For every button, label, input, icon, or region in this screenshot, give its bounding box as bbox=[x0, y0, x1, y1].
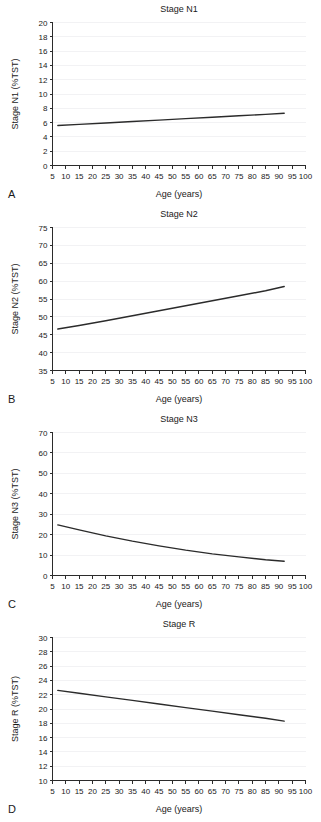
y-tick-label: 6 bbox=[43, 119, 48, 128]
x-tick-label: 100 bbox=[299, 787, 313, 796]
x-tick-label: 85 bbox=[261, 582, 270, 591]
y-tick-label: 60 bbox=[39, 449, 48, 458]
x-tick-label: 40 bbox=[141, 377, 150, 386]
x-tick-label: 25 bbox=[101, 582, 110, 591]
x-tick-label: 30 bbox=[115, 377, 124, 386]
x-tick-label: 75 bbox=[234, 787, 243, 796]
x-tick-label: 95 bbox=[288, 787, 297, 796]
y-tick-label: 50 bbox=[39, 469, 48, 478]
x-tick-label: 90 bbox=[274, 787, 283, 796]
y-tick-label: 10 bbox=[39, 90, 48, 99]
y-tick-label: 45 bbox=[39, 331, 48, 340]
y-tick-label: 16 bbox=[39, 734, 48, 743]
y-tick-label: 35 bbox=[39, 367, 48, 376]
y-tick-label: 10 bbox=[39, 551, 48, 560]
x-tick-label: 40 bbox=[141, 787, 150, 796]
gridlines bbox=[53, 433, 306, 576]
y-tick-label: 65 bbox=[39, 259, 48, 268]
y-tick-label: 0 bbox=[43, 572, 48, 581]
x-tick-label: 35 bbox=[128, 582, 137, 591]
y-tick-label: 40 bbox=[39, 490, 48, 499]
x-tick-label: 25 bbox=[101, 377, 110, 386]
y-axis-title: Stage N1 (%TST) bbox=[10, 58, 20, 129]
y-tick-label: 18 bbox=[39, 33, 48, 42]
x-tick-label: 20 bbox=[88, 172, 97, 181]
y-tick-label: 20 bbox=[39, 19, 48, 28]
x-tick-label: 50 bbox=[168, 377, 177, 386]
x-tick-label: 80 bbox=[248, 582, 257, 591]
x-tick-label: 25 bbox=[101, 172, 110, 181]
data-line bbox=[58, 286, 284, 329]
x-tick-label: 15 bbox=[75, 377, 84, 386]
x-tick-label: 95 bbox=[288, 582, 297, 591]
x-tick-label: 15 bbox=[75, 582, 84, 591]
chart-svg-c: Stage N301020304050607051015202530354045… bbox=[0, 410, 321, 615]
chart-panel-b: Stage N235404550556065707551015202530354… bbox=[0, 205, 321, 410]
x-tick-label: 10 bbox=[61, 582, 70, 591]
x-axis-title: Age (years) bbox=[156, 599, 203, 609]
x-tick-label: 55 bbox=[181, 582, 190, 591]
y-tick-label: 50 bbox=[39, 313, 48, 322]
y-tick-label: 24 bbox=[39, 676, 48, 685]
x-tick-label: 95 bbox=[288, 172, 297, 181]
x-tick-label: 10 bbox=[61, 787, 70, 796]
y-tick-label: 22 bbox=[39, 691, 48, 700]
y-tick-label: 55 bbox=[39, 295, 48, 304]
y-axis-ticks: 1012141618202224262830 bbox=[39, 634, 53, 786]
x-axis-ticks: 5101520253035404550556065707580859095100 bbox=[50, 166, 312, 181]
x-tick-label: 75 bbox=[234, 377, 243, 386]
y-axis-title: Stage R (%TST) bbox=[10, 676, 20, 742]
y-axis-ticks: 354045505560657075 bbox=[39, 224, 53, 376]
x-tick-label: 85 bbox=[261, 172, 270, 181]
x-tick-label: 10 bbox=[61, 377, 70, 386]
x-tick-label: 65 bbox=[208, 377, 217, 386]
panel-letter: C bbox=[8, 598, 16, 610]
x-tick-label: 60 bbox=[195, 787, 204, 796]
y-tick-label: 20 bbox=[39, 705, 48, 714]
y-axis-title: Stage N3 (%TST) bbox=[10, 468, 20, 539]
x-tick-label: 80 bbox=[248, 377, 257, 386]
y-tick-label: 30 bbox=[39, 634, 48, 643]
x-tick-label: 70 bbox=[221, 377, 230, 386]
x-tick-label: 20 bbox=[88, 787, 97, 796]
y-tick-label: 70 bbox=[39, 429, 48, 438]
y-tick-label: 16 bbox=[39, 47, 48, 56]
x-tick-label: 65 bbox=[208, 582, 217, 591]
x-axis-title: Age (years) bbox=[156, 804, 203, 814]
y-tick-label: 60 bbox=[39, 277, 48, 286]
x-tick-label: 70 bbox=[221, 787, 230, 796]
x-tick-label: 50 bbox=[168, 582, 177, 591]
x-tick-label: 15 bbox=[75, 172, 84, 181]
x-tick-label: 10 bbox=[61, 172, 70, 181]
x-tick-label: 40 bbox=[141, 172, 150, 181]
y-tick-label: 75 bbox=[39, 224, 48, 233]
gridlines bbox=[53, 228, 306, 371]
x-tick-label: 90 bbox=[274, 582, 283, 591]
x-tick-label: 30 bbox=[115, 582, 124, 591]
data-line bbox=[58, 113, 284, 125]
x-tick-label: 30 bbox=[115, 787, 124, 796]
x-tick-label: 85 bbox=[261, 377, 270, 386]
y-tick-label: 18 bbox=[39, 719, 48, 728]
x-axis-title: Age (years) bbox=[156, 394, 203, 404]
panel-letter: D bbox=[8, 803, 16, 815]
y-axis-ticks: 010203040506070 bbox=[39, 429, 53, 581]
x-tick-label: 35 bbox=[128, 377, 137, 386]
y-tick-label: 14 bbox=[39, 748, 48, 757]
x-axis-ticks: 5101520253035404550556065707580859095100 bbox=[50, 371, 312, 386]
y-tick-label: 20 bbox=[39, 531, 48, 540]
x-tick-label: 65 bbox=[208, 172, 217, 181]
y-tick-label: 30 bbox=[39, 510, 48, 519]
x-axis-ticks: 5101520253035404550556065707580859095100 bbox=[50, 781, 312, 796]
x-tick-label: 5 bbox=[50, 787, 55, 796]
chart-svg-a: Stage N102468101214161820510152025303540… bbox=[0, 0, 321, 205]
x-tick-label: 35 bbox=[128, 172, 137, 181]
x-tick-label: 75 bbox=[234, 172, 243, 181]
x-tick-label: 5 bbox=[50, 582, 55, 591]
x-tick-label: 70 bbox=[221, 172, 230, 181]
x-tick-label: 65 bbox=[208, 787, 217, 796]
x-tick-label: 55 bbox=[181, 787, 190, 796]
y-tick-label: 26 bbox=[39, 662, 48, 671]
x-tick-label: 50 bbox=[168, 787, 177, 796]
x-tick-label: 45 bbox=[155, 582, 164, 591]
